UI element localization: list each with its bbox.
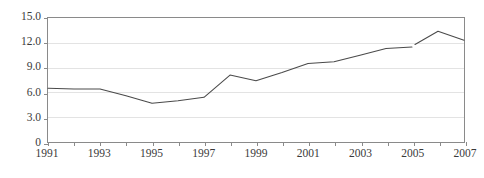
x-axis-tick-label: 2003 [349, 147, 372, 160]
y-axis-tick [44, 18, 48, 19]
x-axis-tick [466, 142, 467, 146]
x-axis-tick [440, 142, 441, 146]
y-axis-label-group: 03.06.09.012.015.0 [0, 17, 47, 143]
x-axis-tick [153, 142, 154, 146]
x-axis-tick-label: 1995 [140, 147, 163, 160]
x-axis-tick-label: 1997 [192, 147, 215, 160]
chart-figure: 03.06.09.012.015.0 199119931995199719992… [0, 0, 484, 178]
y-axis-tick-label: 9.0 [27, 62, 41, 74]
x-axis-tick [309, 142, 310, 146]
x-axis-tick [283, 142, 284, 146]
x-axis-tick-label: 2001 [297, 147, 320, 160]
x-axis-tick-label: 1993 [88, 147, 111, 160]
x-axis-tick-label: 2007 [454, 147, 477, 160]
x-axis-tick [388, 142, 389, 146]
x-axis-tick [126, 142, 127, 146]
x-axis-tick-label: 1999 [245, 147, 268, 160]
x-axis-label-group: 199119931995199719992001200320052007 [47, 147, 465, 167]
y-axis-tick-label: 6.0 [27, 87, 41, 99]
x-axis-tick [231, 142, 232, 146]
x-axis-tick [48, 142, 49, 146]
y-axis-tick [44, 119, 48, 120]
tick-mark-layer [48, 18, 464, 142]
x-axis-tick [414, 142, 415, 146]
x-axis-tick [335, 142, 336, 146]
y-axis-tick-label: 3.0 [27, 112, 41, 124]
y-axis-tick [44, 94, 48, 95]
y-axis-tick-label: 12.0 [21, 36, 41, 48]
plot-area [47, 17, 465, 143]
x-axis-tick-label: 1991 [36, 147, 59, 160]
x-axis-tick [179, 142, 180, 146]
x-axis-tick [257, 142, 258, 146]
x-axis-tick [74, 142, 75, 146]
x-axis-tick [100, 142, 101, 146]
y-axis-tick-label: 15.0 [21, 11, 41, 23]
x-axis-tick [362, 142, 363, 146]
y-axis-tick [44, 43, 48, 44]
x-axis-tick-label: 2005 [401, 147, 424, 160]
x-axis-tick [205, 142, 206, 146]
y-axis-tick [44, 68, 48, 69]
